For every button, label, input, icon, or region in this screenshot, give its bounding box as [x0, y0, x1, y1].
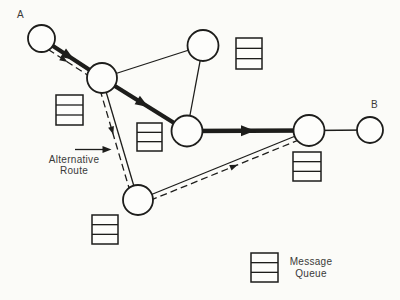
node-b [357, 117, 383, 143]
node-top [188, 30, 219, 61]
queue-right-icon [293, 152, 321, 181]
network-routing-diagram-page: A B Alternative Route Message Queue [0, 0, 400, 300]
queue-top-icon [236, 38, 262, 69]
link-bottom-right [138, 131, 309, 201]
node-upper-left [87, 63, 117, 93]
queue-legend-icon [251, 253, 278, 282]
endpoint-a-label: A [17, 9, 24, 20]
node-center [172, 116, 203, 147]
node-bottom [123, 185, 153, 215]
alternative-route-label: Alternative Route [33, 154, 115, 176]
alt-route-bottom-right-arrowhead [229, 165, 238, 171]
alt-route-upperleft-bottom-arrowhead [108, 126, 114, 135]
queue-center-icon [137, 123, 162, 151]
alternative-route-pointer-arrow-arrowhead [103, 146, 112, 153]
endpoint-b-label: B [371, 99, 378, 110]
queue-bottom-left-icon [92, 215, 118, 244]
message-queue-legend-line1: Message [283, 256, 339, 268]
queue-upper-left-icon [56, 95, 83, 125]
message-queue-legend-label: Message Queue [283, 256, 339, 280]
primary-route-center-right-arrowhead [241, 125, 255, 136]
node-a [28, 25, 55, 52]
alternative-route-label-line2: Route [33, 165, 115, 176]
network-diagram [0, 0, 400, 300]
message-queue-legend-line2: Queue [283, 268, 339, 280]
alt-route-bottom-right [140, 135, 311, 205]
node-right [294, 115, 325, 146]
alternative-route-label-line1: Alternative [33, 154, 115, 165]
alt-route-upperleft-bottom [97, 80, 133, 202]
